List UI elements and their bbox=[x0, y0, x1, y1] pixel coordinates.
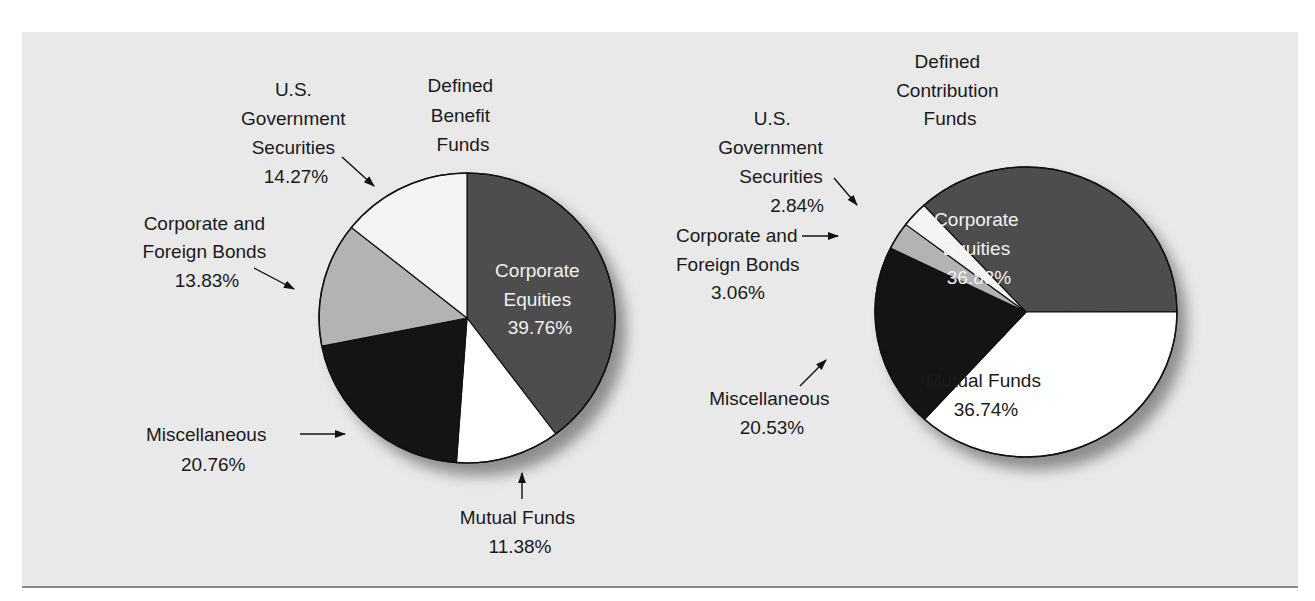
arrow-icon bbox=[834, 178, 857, 205]
defined-benefit-pie bbox=[319, 173, 626, 476]
pie-charts-figure: Defined Benefit Funds U.S. Government Se… bbox=[0, 0, 1315, 601]
label-us-gov-securities: U.S. Government Securities 2.84% bbox=[718, 108, 828, 216]
label-miscellaneous: Miscellaneous 20.76% bbox=[146, 424, 272, 475]
defined-contribution-pie bbox=[875, 167, 1187, 470]
label-us-gov-securities: U.S. Government Securities 14.27% bbox=[241, 79, 351, 187]
label-mutual-funds: Mutual Funds 11.38% bbox=[460, 507, 580, 557]
pie-slices bbox=[875, 167, 1177, 457]
label-corporate-foreign-bonds: Corporate and Foreign Bonds 3.06% bbox=[676, 225, 805, 303]
arrow-icon bbox=[342, 157, 374, 186]
defined-contribution-title: Defined Contribution Funds bbox=[896, 51, 1004, 129]
label-corporate-equities: Corporate Equities 39.76% bbox=[495, 260, 585, 338]
label-miscellaneous: Miscellaneous 20.53% bbox=[709, 388, 835, 438]
defined-benefit-title: Defined Benefit Funds bbox=[428, 75, 499, 155]
arrow-icon bbox=[800, 360, 826, 386]
label-corporate-foreign-bonds: Corporate and Foreign Bonds 13.83% bbox=[143, 213, 272, 291]
arrow-icon bbox=[254, 268, 294, 289]
label-corporate-equities: Corporate Equities 36.83% bbox=[934, 209, 1024, 288]
